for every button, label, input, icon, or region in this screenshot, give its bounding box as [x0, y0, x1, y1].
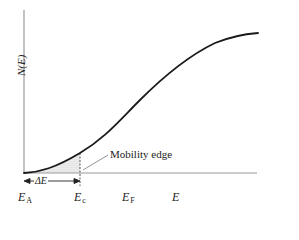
ea-symbol: E [18, 190, 25, 204]
mobility-edge-leader [83, 155, 108, 170]
mobility-edge-label: Mobility edge [110, 149, 172, 160]
x-axis-label: E [172, 191, 179, 203]
energy-label-ea: EA [18, 191, 32, 203]
ec-symbol: E [74, 190, 81, 204]
localized-states-shading [24, 153, 80, 173]
ef-subscript: F [130, 196, 134, 205]
delta-e-label: ΔE [34, 176, 48, 186]
delta-e-arrow [24, 179, 80, 184]
y-axis-label: N(E) [16, 55, 27, 76]
energy-label-ec: Ec [74, 191, 86, 203]
ea-subscript: A [26, 196, 32, 205]
ef-symbol: E [122, 190, 129, 204]
ec-subscript: c [82, 196, 86, 205]
energy-label-ef: EF [122, 191, 135, 203]
